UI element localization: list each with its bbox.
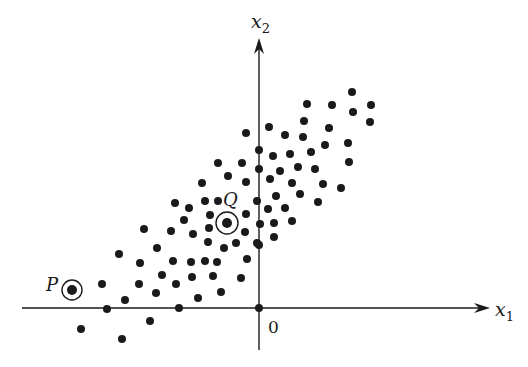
data-point <box>224 172 232 180</box>
data-point <box>198 179 206 187</box>
data-point <box>366 118 374 126</box>
data-point <box>103 305 111 313</box>
point-p: P <box>45 274 82 300</box>
data-point <box>337 184 345 192</box>
data-point <box>238 159 246 167</box>
x2-axis-label: x2 <box>251 10 270 36</box>
data-point <box>213 258 221 266</box>
data-point <box>253 239 261 247</box>
data-point <box>152 289 160 297</box>
data-point <box>187 258 195 266</box>
data-point <box>243 255 251 263</box>
data-point <box>299 133 307 141</box>
x1-axis-label: x1 <box>495 298 514 324</box>
data-point <box>135 280 143 288</box>
data-point <box>232 239 240 247</box>
data-point <box>314 198 322 206</box>
origin-label: 0 <box>268 317 279 337</box>
data-point <box>209 272 217 280</box>
diagram-svg: PQ x1 x2 0 <box>0 0 528 367</box>
data-point <box>348 88 356 96</box>
data-point <box>171 199 179 207</box>
data-point <box>206 211 214 219</box>
data-point <box>180 216 188 224</box>
data-point <box>321 141 329 149</box>
data-point <box>214 197 222 205</box>
data-point <box>319 180 327 188</box>
data-point <box>205 224 213 232</box>
data-point <box>175 304 183 312</box>
data-point <box>121 296 129 304</box>
data-point <box>98 280 106 288</box>
data-point <box>345 158 353 166</box>
data-point <box>349 108 357 116</box>
data-point <box>281 131 289 139</box>
data-point <box>264 205 272 213</box>
data-point <box>296 190 304 198</box>
data-point <box>217 288 225 296</box>
data-point <box>270 233 278 241</box>
data-point <box>276 167 284 175</box>
data-point <box>158 271 166 279</box>
point-q: Q <box>216 189 238 234</box>
point-label-p: P <box>45 274 59 295</box>
data-point <box>281 204 289 212</box>
data-point <box>115 250 123 258</box>
data-point <box>194 294 202 302</box>
data-point <box>288 179 296 187</box>
data-point <box>255 304 263 312</box>
data-point <box>265 123 273 131</box>
data-point <box>169 257 177 265</box>
point-label-q: Q <box>223 189 238 210</box>
data-point <box>253 197 261 205</box>
data-point <box>118 335 126 343</box>
data-point <box>300 117 308 125</box>
data-point <box>286 150 294 158</box>
data-point <box>325 124 333 132</box>
data-point <box>188 273 196 281</box>
data-point <box>272 192 280 200</box>
data-point <box>201 257 209 265</box>
data-point <box>270 219 278 227</box>
data-point <box>153 244 161 252</box>
data-point <box>167 227 175 235</box>
data-point <box>269 152 277 160</box>
data-point <box>146 317 154 325</box>
data-point <box>328 101 336 109</box>
data-point <box>344 139 352 147</box>
data-point <box>136 259 144 267</box>
data-point <box>204 238 212 246</box>
data-point <box>255 146 263 154</box>
data-point <box>189 230 197 238</box>
data-points <box>77 88 375 343</box>
data-point <box>237 274 245 282</box>
data-point <box>220 244 228 252</box>
data-point <box>222 218 232 228</box>
axis-labels: x1 x2 0 <box>251 10 514 337</box>
data-point <box>77 325 85 333</box>
data-point <box>294 163 302 171</box>
data-point <box>201 197 209 205</box>
data-point <box>255 165 263 173</box>
data-point <box>140 225 148 233</box>
data-point <box>242 178 250 186</box>
data-point <box>185 204 193 212</box>
axes <box>22 38 490 350</box>
data-point <box>266 175 274 183</box>
data-point <box>311 165 319 173</box>
data-point <box>367 101 375 109</box>
data-point <box>242 129 250 137</box>
data-point <box>256 220 264 228</box>
data-point <box>172 280 180 288</box>
data-point <box>214 159 222 167</box>
data-point <box>242 210 250 218</box>
data-point <box>307 148 315 156</box>
data-point <box>303 100 311 108</box>
data-point <box>67 285 77 295</box>
data-point <box>288 217 296 225</box>
data-point <box>241 228 249 236</box>
scatter-diagram: PQ x1 x2 0 <box>0 0 528 367</box>
